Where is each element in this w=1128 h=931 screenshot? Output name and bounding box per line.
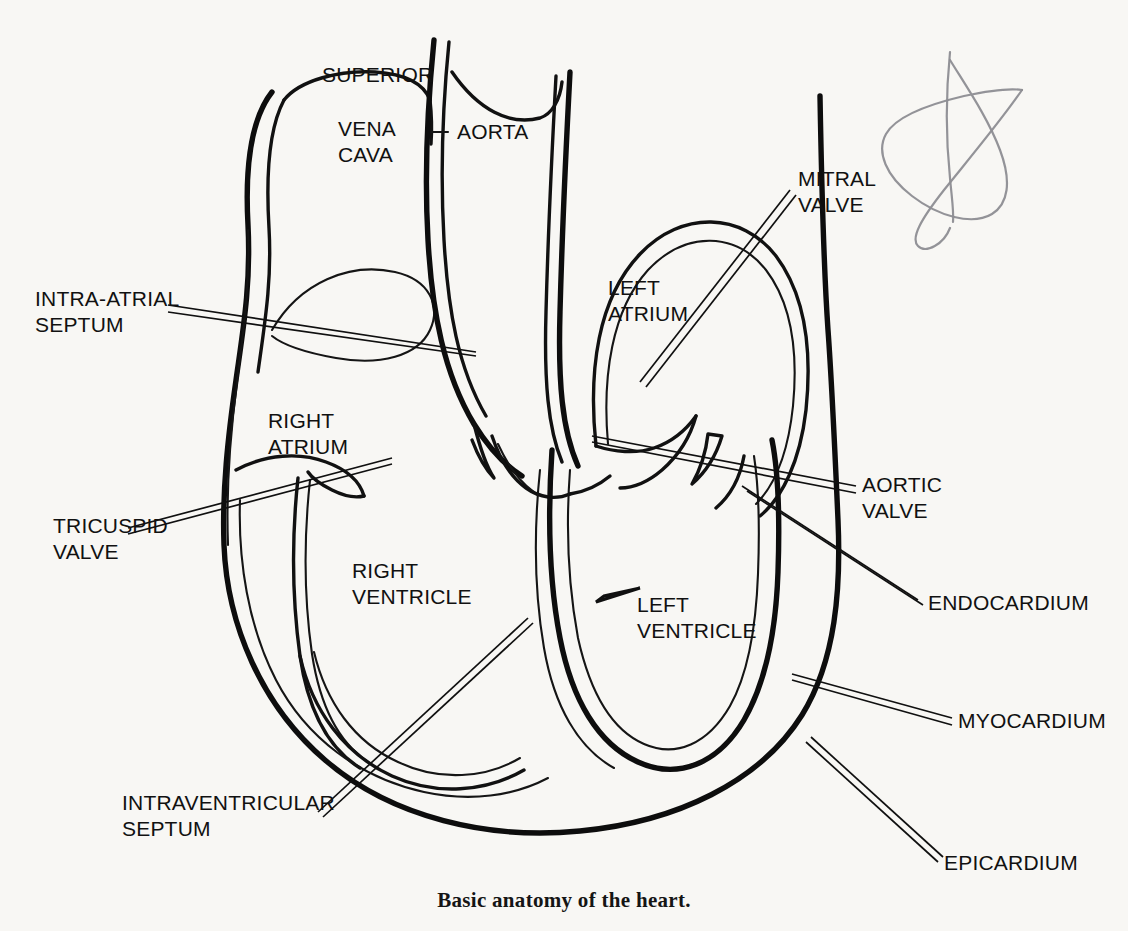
heart-outer-wall <box>224 92 839 833</box>
label-left-atrium: LEFT ATRIUM <box>608 275 688 327</box>
label-endocardium: ENDOCARDIUM <box>928 590 1089 616</box>
figure-caption: Basic anatomy of the heart. <box>0 888 1128 913</box>
figure-page: SUPERIOR VENA CAVA AORTA MITRAL VALVE LE… <box>0 0 1128 931</box>
label-epicardium: EPICARDIUM <box>944 850 1078 876</box>
label-superior-vena-cava-top: SUPERIOR <box>322 62 433 88</box>
aorta-vessel <box>426 40 578 476</box>
handwritten-signature-scribble <box>882 52 1022 249</box>
label-intra-atrial-septum: INTRA-ATRIAL SEPTUM <box>35 286 179 338</box>
label-mitral-valve: MITRAL VALVE <box>798 166 876 218</box>
aortic-valve-outflow <box>472 424 610 497</box>
label-superior-vena-cava: VENA CAVA <box>338 116 396 168</box>
label-right-ventricle: RIGHT VENTRICLE <box>352 558 472 610</box>
label-right-atrium: RIGHT ATRIUM <box>268 408 348 460</box>
label-intraventricular-septum: INTRAVENTRICULAR SEPTUM <box>122 790 335 842</box>
right-atrium-chamber <box>227 230 368 768</box>
label-aorta: AORTA <box>457 119 528 145</box>
label-tricuspid-valve: TRICUSPID VALVE <box>53 513 168 565</box>
label-aortic-valve: AORTIC VALVE <box>862 472 942 524</box>
label-left-ventricle: LEFT VENTRICLE <box>637 592 757 644</box>
label-myocardium: MYOCARDIUM <box>958 708 1106 734</box>
